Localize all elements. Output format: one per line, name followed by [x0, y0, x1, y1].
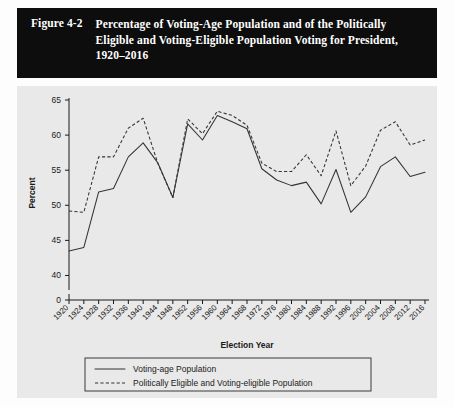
legend-label: Politically Eligible and Voting-eligible… [133, 378, 313, 388]
voter-turnout-line-chart: 0404550556065 19201924192819321936194019… [17, 86, 437, 398]
x-tick-label: 2016 [407, 303, 426, 322]
y-tick-label: 45 [52, 235, 62, 245]
x-tick-label: 1924 [66, 303, 85, 322]
x-tick-label: 1960 [200, 303, 219, 322]
x-tick-label: 2008 [378, 303, 397, 322]
x-tick-label: 1932 [96, 303, 115, 322]
figure-title-bar: Figure 4-2 Percentage of Voting-Age Popu… [17, 8, 437, 78]
x-tick-label: 1968 [229, 303, 248, 322]
figure-number: Figure 4-2 [31, 17, 83, 29]
y-tick-label: 50 [52, 200, 62, 210]
chart-panel: 0404550556065 19201924192819321936194019… [17, 86, 437, 398]
chart-legend: Voting-age PopulationPolitically Eligibl… [85, 358, 371, 391]
x-tick-label: 1948 [155, 303, 174, 322]
legend-label: Voting-age Population [133, 364, 216, 374]
series-line-voting-age [69, 115, 425, 250]
y-tick-label: 55 [52, 165, 62, 175]
x-tick-label: 1964 [215, 303, 234, 322]
y-tick-label: 0 [56, 295, 61, 305]
x-tick-label: 1996 [333, 303, 352, 322]
x-tick-label: 1940 [126, 303, 145, 322]
y-axis-label: Percent [27, 177, 37, 208]
x-tick-label: 1984 [289, 303, 308, 322]
x-tick-label: 1956 [185, 303, 204, 322]
y-tick-label: 65 [52, 95, 62, 105]
x-tick-label: 1952 [170, 303, 189, 322]
x-axis-ticks: 1920192419281932193619401944194819521956… [51, 300, 426, 322]
x-tick-label: 2000 [348, 303, 367, 322]
y-tick-label: 40 [52, 270, 62, 280]
series-line-eligible [69, 111, 425, 212]
figure-page: Figure 4-2 Percentage of Voting-Age Popu… [0, 0, 454, 407]
x-tick-label: 2004 [363, 303, 382, 322]
x-tick-label: 1992 [318, 303, 337, 322]
x-tick-label: 1980 [274, 303, 293, 322]
x-tick-label: 1920 [51, 303, 70, 322]
data-series-group [69, 111, 425, 251]
y-tick-label: 60 [52, 130, 62, 140]
x-tick-label: 1976 [259, 303, 278, 322]
y-axis-ticks: 0404550556065 [52, 95, 69, 305]
x-tick-label: 1944 [140, 303, 159, 322]
x-tick-label: 1972 [244, 303, 263, 322]
figure-caption: Percentage of Voting-Age Population and … [96, 17, 423, 64]
x-tick-label: 1988 [304, 303, 323, 322]
x-axis-label: Election Year [220, 340, 274, 350]
x-tick-label: 1936 [111, 303, 130, 322]
x-tick-label: 2012 [393, 303, 412, 322]
x-tick-label: 1928 [81, 303, 100, 322]
